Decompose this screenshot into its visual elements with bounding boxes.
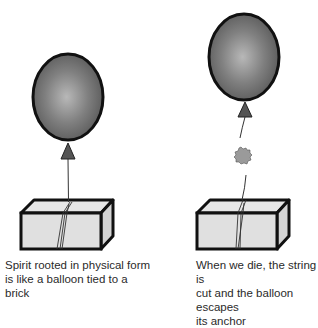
balloon-right — [209, 14, 279, 100]
brick-right — [197, 200, 289, 249]
string-upper-right — [240, 117, 245, 138]
brick-left — [21, 200, 113, 249]
left-panel — [21, 54, 113, 249]
cut-burst-icon — [234, 147, 252, 164]
balloon-knot-right — [238, 102, 252, 117]
string-lower-right — [242, 175, 246, 200]
balloon-left — [33, 54, 103, 140]
caption-left: Spirit rooted in physical form is like a… — [5, 258, 155, 300]
right-panel — [197, 14, 289, 249]
string-left — [68, 159, 69, 202]
balloon-knot-left — [61, 143, 75, 159]
caption-right: When we die, the string is cut and the b… — [196, 258, 318, 328]
